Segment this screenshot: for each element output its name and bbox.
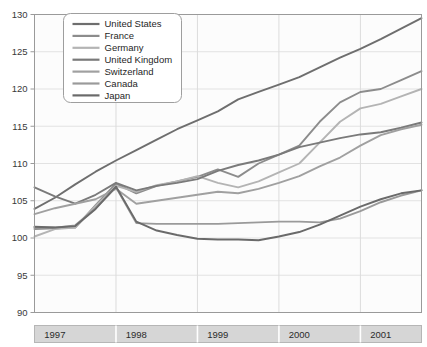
legend-label-canada[interactable]: Canada (105, 78, 139, 89)
y-tick-label: 120 (12, 83, 28, 94)
chart-legend[interactable]: United StatesFranceGermanyUnited Kingdom… (64, 14, 182, 103)
x-tick-label: 2001 (370, 329, 391, 340)
y-tick-label: 125 (12, 46, 28, 57)
y-tick-label: 105 (12, 195, 28, 206)
legend-label-france[interactable]: France (105, 30, 135, 41)
y-tick-label: 115 (12, 121, 27, 132)
chart-canvas: 9095100105110115120125130 19971998199920… (0, 0, 427, 347)
legend-label-switzerland[interactable]: Switzerland (105, 66, 154, 77)
legend-label-united-kingdom[interactable]: United Kingdom (105, 54, 173, 65)
y-tick-label: 90 (17, 307, 28, 318)
x-tick-label: 1999 (207, 329, 228, 340)
legend-label-germany[interactable]: Germany (105, 42, 144, 53)
y-tick-label: 110 (12, 158, 27, 169)
legend-label-japan[interactable]: Japan (105, 90, 131, 101)
x-tick-label: 1998 (126, 329, 147, 340)
x-tick-label: 2000 (289, 329, 310, 340)
y-tick-label: 95 (17, 270, 28, 281)
y-tick-label: 100 (12, 232, 28, 243)
x-tick-label: 1997 (44, 329, 65, 340)
line-chart: 9095100105110115120125130 19971998199920… (0, 0, 427, 347)
legend-label-united-states[interactable]: United States (105, 18, 162, 29)
y-tick-label: 130 (12, 9, 28, 20)
